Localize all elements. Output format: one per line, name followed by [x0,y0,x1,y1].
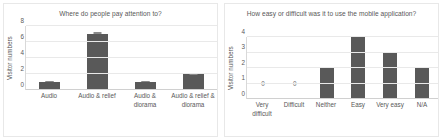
x-axis-tick-label: Audio & diorama [121,92,169,109]
error-bar [97,32,98,34]
bar[interactable] [87,34,108,90]
y-axis-tick-label: 3 [241,43,245,50]
chart-title: Where do people pay attention to? [4,4,217,19]
x-axis-tick-label: Audio & relief & diorama [169,92,217,109]
bar-slot[interactable] [342,37,374,99]
gridline [247,67,438,68]
gridline [247,52,438,53]
x-axis-tick-label: Difficult [278,101,310,118]
x-axis-tick-label: Audio [25,92,73,109]
y-axis-tick-label: 1 [241,74,245,81]
plot-wrapper-attention: Visitor numbers 02468 [4,26,217,90]
plot-wrapper-ease: Visitor numbers 01234 00 [225,37,438,99]
gridline [26,73,217,74]
chart-card-ease-of-use: How easy or difficult was it to use the … [224,3,439,137]
bar[interactable] [183,74,204,90]
bar-value-label: 0 [293,80,297,87]
bar-series: 00 [247,37,438,99]
bar-slot[interactable] [374,37,406,99]
bar-slot[interactable] [74,26,122,90]
bar[interactable] [415,68,429,99]
bar[interactable] [320,68,334,99]
error-bar-cap-bottom [46,81,54,82]
y-axis-tick-label: 4 [20,48,24,55]
bar-value-label: 0 [261,80,265,87]
error-bar-cap-bottom [94,33,102,34]
error-bar-cap-bottom [141,81,149,82]
y-axis-tick-label: 0 [20,80,24,87]
chart-title: How easy or difficult was it to use the … [225,4,438,19]
y-axis-label: Visitor numbers [4,26,15,90]
plot-area: 00 [246,37,438,99]
x-axis-tick-label: Neither [310,101,342,118]
x-axis-tick-label: Very difficult [246,101,278,118]
y-axis-tick-label: 2 [241,58,245,65]
bar[interactable] [383,53,397,100]
bar-slot[interactable] [169,26,217,90]
gridline [26,41,217,42]
error-bar [145,81,146,82]
bar-slot[interactable] [311,37,343,99]
x-axis-tick-label: Very easy [374,101,406,118]
y-axis-tick-label: 0 [241,89,245,96]
gridline [26,57,217,58]
error-bar [49,81,50,82]
bar-slot[interactable] [26,26,74,90]
gridline [26,25,217,26]
x-axis-tick-label: N/A [406,101,438,118]
charts-container: Where do people pay attention to? Visito… [0,0,442,140]
x-axis-tick-label: Easy [342,101,374,118]
x-axis-labels: Very difficultDifficultNeitherEasyVery e… [246,101,438,118]
y-axis-ticks: 02468 [15,26,25,90]
y-axis-tick-label: 6 [20,32,24,39]
gridline [247,36,438,37]
bar-series [26,26,217,90]
bar-slot[interactable]: 0 [279,37,311,99]
chart-card-attention: Where do people pay attention to? Visito… [3,3,218,137]
bar-slot[interactable] [122,26,170,90]
bar-slot[interactable]: 0 [247,37,279,99]
y-axis-ticks: 01234 [236,37,246,99]
bar[interactable] [351,37,365,99]
gridline [247,83,438,84]
x-axis-tick-label: Audio & relief [73,92,121,109]
y-axis-label: Visitor numbers [225,37,236,99]
y-axis-tick-label: 4 [241,27,245,34]
y-axis-tick-label: 8 [20,16,24,23]
gridline [247,98,438,99]
gridline [26,89,217,90]
bar-slot[interactable] [406,37,438,99]
y-axis-tick-label: 2 [20,64,24,71]
plot-area [25,26,217,90]
x-axis-labels: AudioAudio & reliefAudio & dioramaAudio … [25,92,217,109]
